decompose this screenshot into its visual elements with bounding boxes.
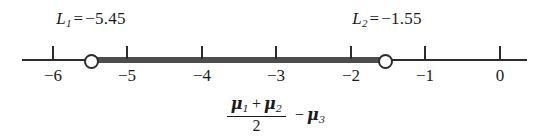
fraction-numerator: μ1+μ2 [227, 96, 286, 116]
endpoint-label-l2-equals: = [368, 9, 382, 28]
parameter-expression: μ1+μ2 2 −μ3 [0, 96, 552, 135]
confidence-interval-segment [91, 57, 385, 63]
endpoint-label-l1-symbol: L [56, 9, 66, 28]
mu-1-subscript: 1 [243, 103, 249, 114]
axis-tick-label--4: −4 [193, 66, 211, 86]
endpoint-label-l1-equals: = [72, 9, 86, 28]
axis-tick-label--5: −5 [118, 66, 136, 86]
endpoint-label-l1: L1=−5.45 [56, 9, 125, 29]
axis-tick--2 [350, 46, 352, 59]
mu-1-glyph: μ [231, 94, 243, 113]
axis-tick-0 [499, 46, 501, 59]
endpoint-label-l1-value: −5.45 [85, 9, 125, 28]
mean-difference-fraction: μ1+μ2 2 [227, 96, 286, 135]
number-line-figure: L1=−5.45 L2=−1.55 −6 −5 −4 −3 −2 −1 0 μ1… [0, 0, 552, 140]
plus-operator: + [249, 95, 264, 112]
endpoint-label-l2-value: −1.55 [381, 9, 421, 28]
endpoint-label-l2-symbol: L [352, 9, 362, 28]
axis-tick-label--3: −3 [267, 66, 285, 86]
axis-tick-label-0: 0 [496, 66, 505, 86]
mu-1-symbol: μ1 [231, 94, 249, 113]
mu-3-symbol: μ3 [307, 105, 325, 125]
interval-upper-endpoint-marker [378, 54, 393, 69]
axis-tick--3 [275, 46, 277, 59]
interval-lower-endpoint-marker [84, 54, 99, 69]
minus-operator: − [292, 106, 307, 124]
axis-tick-label--6: −6 [44, 66, 62, 86]
endpoint-label-l2: L2=−1.55 [352, 9, 421, 29]
axis-tick--1 [424, 46, 426, 59]
mu-2-glyph: μ [264, 94, 276, 113]
axis-tick--6 [52, 46, 54, 59]
axis-tick-label--2: −2 [342, 66, 360, 86]
axis-tick-label--1: −1 [416, 66, 434, 86]
mu-3-subscript: 3 [319, 114, 325, 125]
axis-tick--4 [201, 46, 203, 59]
fraction-denominator: 2 [252, 117, 260, 135]
minus-mu-3-term: −μ3 [286, 105, 325, 125]
axis-tick--5 [126, 46, 128, 59]
mu-3-glyph: μ [307, 105, 319, 124]
mu-2-subscript: 2 [276, 103, 282, 114]
mu-2-symbol: μ2 [264, 94, 282, 113]
